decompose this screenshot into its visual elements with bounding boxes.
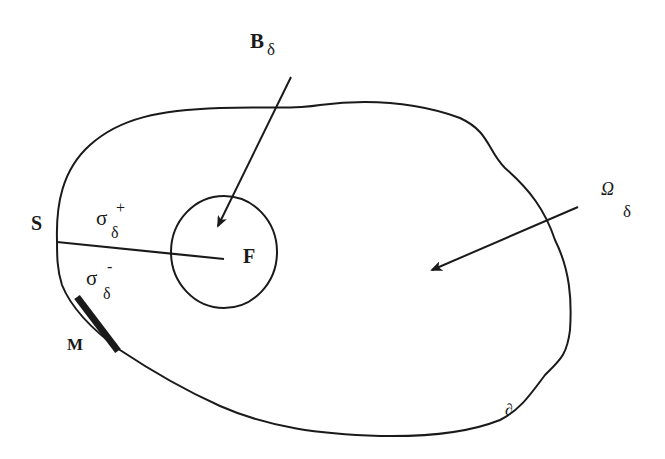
label-sigma-minus-sub: δ xyxy=(103,285,111,302)
label-boundary: ∂ xyxy=(505,401,513,418)
arrow-B xyxy=(218,77,291,226)
label-Omega-sub: δ xyxy=(623,202,631,221)
cut-segment-sigma xyxy=(57,242,224,259)
domain-diagram: Bδ Ω δ S F M σ + δ σ - δ ∂ xyxy=(0,0,665,459)
label-F: F xyxy=(243,245,255,267)
label-sigma-minus-sup: - xyxy=(107,258,112,275)
outer-domain-boundary xyxy=(57,102,571,436)
label-B: Bδ xyxy=(250,29,275,59)
thick-segment-M xyxy=(77,297,118,351)
label-sigma-plus-sup: + xyxy=(116,199,125,216)
label-sigma-plus-sub: δ xyxy=(111,224,119,241)
label-Omega: Ω xyxy=(601,179,614,199)
label-sigma-plus: σ xyxy=(96,206,107,230)
label-sigma-minus: σ xyxy=(86,266,97,290)
label-S: S xyxy=(31,212,42,234)
arrow-Omega xyxy=(432,207,578,270)
label-M: M xyxy=(67,335,83,354)
